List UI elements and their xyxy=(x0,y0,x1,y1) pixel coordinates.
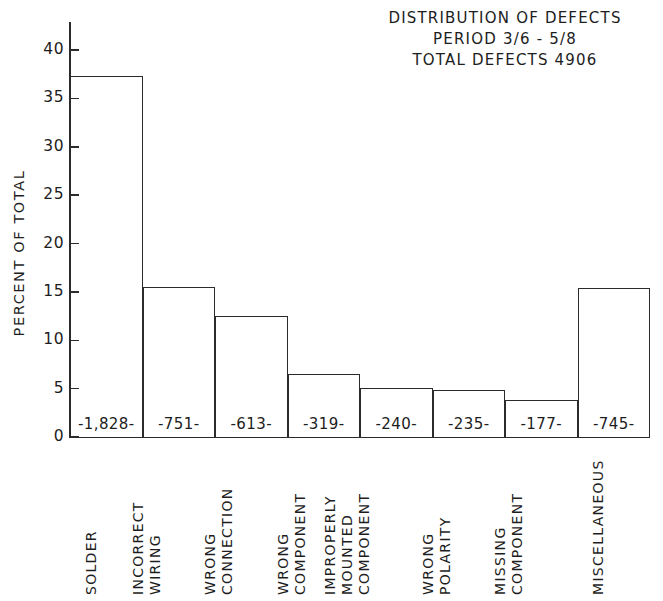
category-label-line: WIRING xyxy=(147,501,164,595)
bar-5: -240- xyxy=(360,388,433,437)
y-tick-label-35: 35 xyxy=(30,88,64,106)
category-label-8: MISCELLANEOUS xyxy=(590,459,607,595)
category-label-1: SOLDER xyxy=(83,530,100,595)
chart-title-block: DISTRIBUTION OF DEFECTS PERIOD 3/6 - 5/8… xyxy=(355,8,655,71)
bar-value-label-7: -177- xyxy=(506,415,577,433)
bar-value-label-4: -319- xyxy=(289,415,360,433)
chart-title-line-2: PERIOD 3/6 - 5/8 xyxy=(355,29,655,50)
bar-value-label-3: -613- xyxy=(216,415,287,433)
category-label-line: COMPONENT xyxy=(356,493,373,595)
chart-title-line-3: TOTAL DEFECTS 4906 xyxy=(355,50,655,71)
bar-6: -235- xyxy=(433,390,506,437)
y-tick-label-15: 15 xyxy=(30,282,64,300)
y-axis-title: PERCENT OF TOTAL xyxy=(11,148,27,358)
bar-value-label-8: -745- xyxy=(579,415,650,433)
category-labels-layer: SOLDERINCORRECTWIRINGWRONGCONNECTIONWRON… xyxy=(0,437,663,601)
category-label-line: SOLDER xyxy=(83,530,100,595)
category-label-line: POLARITY xyxy=(437,516,454,595)
defects-bar-chart: DISTRIBUTION OF DEFECTS PERIOD 3/6 - 5/8… xyxy=(0,0,663,601)
y-tick-label-40: 40 xyxy=(30,40,64,58)
bar-value-label-1: -1,828- xyxy=(71,415,142,433)
category-label-line: WRONG xyxy=(202,487,219,595)
category-label-line: CONNECTION xyxy=(219,487,236,595)
category-label-4: WRONGCOMPONENT xyxy=(275,493,309,595)
category-label-2: INCORRECTWIRING xyxy=(130,501,164,595)
category-label-line: IMPROPERLY xyxy=(322,493,339,595)
y-tick-label-5: 5 xyxy=(30,379,64,397)
y-tick-label-25: 25 xyxy=(30,185,64,203)
bar-3: -613- xyxy=(215,316,288,437)
category-label-line: MOUNTED xyxy=(339,493,356,595)
y-tick-label-10: 10 xyxy=(30,330,64,348)
bar-7: -177- xyxy=(505,400,578,437)
bar-2: -751- xyxy=(143,287,216,437)
bar-1: -1,828- xyxy=(70,76,143,437)
y-tick-label-20: 20 xyxy=(30,234,64,252)
category-label-line: WRONG xyxy=(420,516,437,595)
category-label-line: MISSING xyxy=(492,493,509,595)
y-tick-label-30: 30 xyxy=(30,137,64,155)
category-label-5: IMPROPERLYMOUNTEDCOMPONENT xyxy=(322,493,373,595)
category-label-line: COMPONENT xyxy=(509,493,526,595)
bar-value-label-5: -240- xyxy=(361,415,432,433)
bar-4: -319- xyxy=(288,374,361,437)
category-label-6: WRONGPOLARITY xyxy=(420,516,454,595)
category-label-line: MISCELLANEOUS xyxy=(590,459,607,595)
bar-value-label-2: -751- xyxy=(144,415,215,433)
bar-value-label-6: -235- xyxy=(434,415,505,433)
y-tick-40 xyxy=(70,49,79,51)
category-label-3: WRONGCONNECTION xyxy=(202,487,236,595)
category-label-line: COMPONENT xyxy=(292,493,309,595)
chart-title-line-1: DISTRIBUTION OF DEFECTS xyxy=(355,8,655,29)
category-label-line: WRONG xyxy=(275,493,292,595)
bar-8: -745- xyxy=(578,288,651,437)
category-label-line: INCORRECT xyxy=(130,501,147,595)
category-label-7: MISSINGCOMPONENT xyxy=(492,493,526,595)
